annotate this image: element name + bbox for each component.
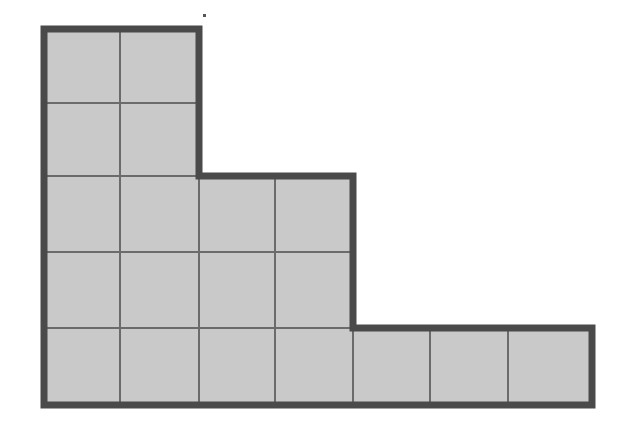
- staircase-polyomino-figure: [0, 0, 621, 439]
- scan-speck-artifact: [203, 14, 206, 17]
